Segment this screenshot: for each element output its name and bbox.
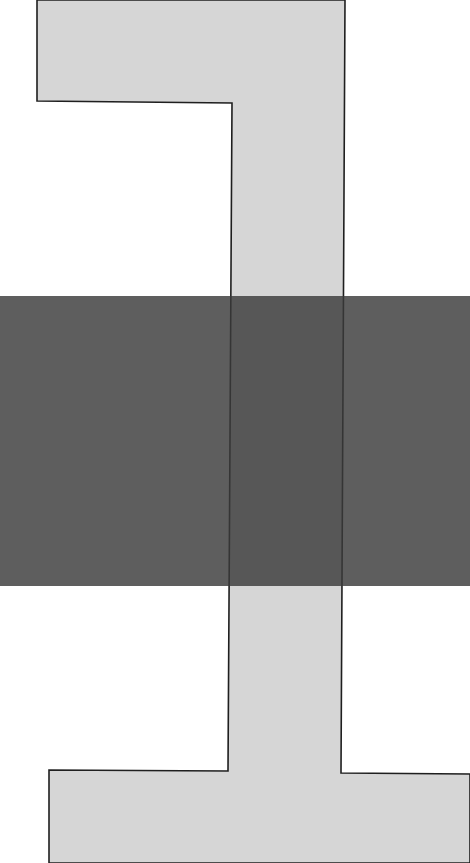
abstract-composition (0, 0, 470, 863)
dark-horizontal-band (0, 296, 470, 586)
